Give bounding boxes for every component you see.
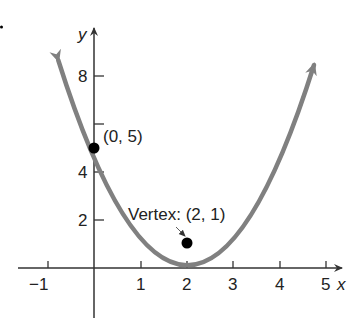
y-tick-label: 4 (78, 163, 87, 182)
x-tick-label: −1 (29, 275, 48, 294)
stray-dot (0, 26, 3, 29)
parabola-chart: −1 1 2 3 4 5 x 2 4 8 y (0, 5) Vertex: (2… (0, 0, 355, 320)
vertex-label: Vertex: (2, 1) (128, 205, 225, 224)
x-tick-label: 4 (275, 275, 284, 294)
y-tick-label: 8 (78, 67, 87, 86)
x-axis-label: x (336, 275, 346, 294)
x-tick-label: 1 (136, 275, 145, 294)
y-intercept-label: (0, 5) (103, 127, 143, 146)
y-intercept-point (89, 143, 100, 154)
y-tick-label: 2 (78, 211, 87, 230)
x-tick-label: 3 (228, 275, 237, 294)
vertex-point (182, 238, 193, 249)
x-tick-label: 2 (182, 275, 191, 294)
x-tick-label: 5 (321, 275, 330, 294)
vertex-pointer-arrow (176, 227, 185, 236)
y-axis-label: y (77, 25, 88, 44)
parabola-curve (58, 60, 314, 265)
